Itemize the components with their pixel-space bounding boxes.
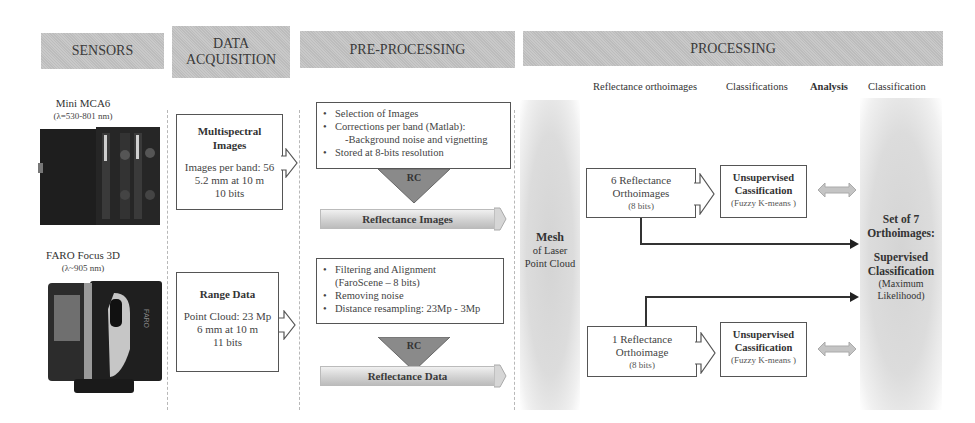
- preprocessing-1-step-2: Corrections per band (Matlab):: [323, 120, 504, 133]
- preprocessing-2-step-3: Distance resampling: 23Mp - 3Mp: [323, 302, 497, 315]
- final-line5: (Maximum: [858, 278, 944, 290]
- col-label-analysis: Analysis: [810, 81, 848, 92]
- final-line3: Supervised: [858, 250, 944, 264]
- arrow-right-icon: [695, 332, 717, 374]
- ortho-2-line-2: Orthoimage: [588, 346, 696, 359]
- final-line1: Set of 7: [858, 212, 944, 226]
- header-sensors-label: SENSORS: [72, 43, 133, 59]
- preprocessing-1-substep: -Background noise and vignetting: [323, 133, 504, 146]
- connector-line: [645, 296, 852, 298]
- preprocessing-1-step-1: Selection of Images: [323, 107, 504, 120]
- laser-scanner-photo: FARO: [44, 279, 164, 397]
- separator-3: [514, 110, 515, 410]
- arrow-right-icon: [694, 173, 716, 215]
- ortho-1-line-1: 6 Reflectance: [587, 174, 695, 187]
- header-data-label-2: ACQUISITION: [186, 52, 276, 68]
- multispectral-line-1: Images per band: 56: [177, 161, 282, 174]
- separator-1: [167, 110, 168, 410]
- header-processing: PROCESSING: [523, 31, 943, 66]
- arrow-head-icon: [850, 239, 859, 249]
- connector-line: [640, 218, 642, 244]
- multispectral-camera-photo: [38, 125, 162, 228]
- sensor-2-name: FARO Focus 3D: [8, 249, 158, 261]
- unsupervised-2-line-2: Cassification: [721, 341, 806, 354]
- sensor-1-name: Mini MCA6: [8, 97, 158, 109]
- reflectance-images-result: Reflectance Images: [320, 209, 495, 229]
- unsupervised-1-line-1: Unsupervised: [721, 171, 806, 184]
- rc-label-1: RC: [378, 172, 450, 183]
- connector-line: [640, 243, 852, 245]
- unsupervised-classification-box-2: Unsupervised Cassification (Fuzzy K-mean…: [720, 322, 807, 377]
- col-label-classification: Classification: [868, 81, 926, 92]
- final-line4: Classification: [858, 264, 944, 278]
- one-reflectance-orthoimage-box: 1 Reflectance Orthoimage (8 bits): [587, 326, 697, 377]
- multispectral-title-2: Images: [177, 138, 282, 152]
- ortho-1-bits: (8 bits): [587, 200, 695, 212]
- final-line6: Likelihood): [858, 290, 944, 302]
- preprocessing-2-step-2: Removing noise: [323, 289, 497, 302]
- header-pre-processing-label: PRE-PROCESSING: [350, 42, 466, 58]
- unsupervised-1-method: (Fuzzy K-means ): [721, 197, 806, 209]
- unsupervised-classification-box-1: Unsupervised Cassification (Fuzzy K-mean…: [720, 165, 807, 218]
- multispectral-title-1: Multispectral: [177, 124, 282, 138]
- header-data-label-1: DATA: [213, 36, 249, 52]
- multispectral-line-3: 10 bits: [177, 187, 282, 200]
- range-data-title: Range Data: [177, 287, 278, 301]
- ortho-1-line-2: Orthoimages: [587, 187, 695, 200]
- six-reflectance-orthoimages-box: 6 Reflectance Orthoimages (8 bits): [586, 168, 696, 218]
- final-line2: Orthoimages:: [858, 226, 944, 240]
- range-data-line-2: 6 mm at 10 m: [177, 323, 278, 336]
- col-label-classifications: Classifications: [726, 81, 788, 92]
- col-label-reflectance-orthoimages: Reflectance orthoimages: [593, 81, 697, 92]
- arrow-right-icon: [281, 148, 299, 178]
- range-data-line-1: Point Cloud: 23 Mp: [177, 310, 278, 323]
- header-pre-processing: PRE-PROCESSING: [300, 31, 515, 68]
- unsupervised-2-method: (Fuzzy K-means ): [721, 354, 806, 366]
- arrow-head-icon: [850, 292, 859, 302]
- range-data-line-3: 11 bits: [177, 336, 278, 349]
- preprocessing-steps-1: Selection of Images Corrections per band…: [316, 102, 511, 169]
- mesh-label: Mesh of Laser Point Cloud: [520, 230, 580, 270]
- multispectral-line-2: 5.2 mm at 10 m: [177, 174, 282, 187]
- header-processing-label: PROCESSING: [690, 41, 776, 57]
- mesh-line1: of Laser: [520, 244, 580, 257]
- unsupervised-1-line-2: Cassification: [721, 184, 806, 197]
- arrow-right-icon: [279, 310, 297, 340]
- mesh-title: Mesh: [520, 230, 580, 244]
- header-data-acquisition: DATA ACQUISITION: [172, 26, 290, 78]
- preprocessing-1-step-3: Stored at 8-bits resolution: [323, 146, 504, 159]
- preprocessing-2-substep: (FaroScene – 8 bits): [323, 276, 497, 289]
- rc-label-2: RC: [378, 340, 450, 351]
- header-sensors: SENSORS: [41, 33, 164, 69]
- reflectance-data-result: Reflectance Data: [320, 366, 495, 386]
- preprocessing-steps-2: Filtering and Alignment (FaroScene – 8 b…: [316, 258, 504, 324]
- double-arrow-icon: [817, 341, 857, 357]
- double-arrow-icon: [817, 182, 857, 198]
- range-data-box: Range Data Point Cloud: 23 Mp 6 mm at 10…: [176, 272, 279, 372]
- separator-2: [299, 110, 300, 410]
- multispectral-images-box: Multispectral Images Images per band: 56…: [176, 114, 283, 210]
- sensor-2-wavelength: (λ~905 nm): [8, 263, 158, 273]
- connector-line: [645, 297, 647, 326]
- ortho-2-line-1: 1 Reflectance: [588, 333, 696, 346]
- preprocessing-2-step-1: Filtering and Alignment: [323, 263, 497, 276]
- unsupervised-2-line-1: Unsupervised: [721, 328, 806, 341]
- ortho-2-bits: (8 bits): [588, 359, 696, 371]
- arrow-right-icon: [494, 205, 508, 233]
- sensor-1-wavelength: (λ=530-801 nm): [8, 111, 158, 121]
- final-classification-label: Set of 7 Orthoimages: Supervised Classif…: [858, 212, 944, 302]
- faro-brand-mark: FARO: [143, 309, 150, 329]
- mesh-line2: Point Cloud: [520, 257, 580, 270]
- arrow-right-icon: [494, 362, 508, 390]
